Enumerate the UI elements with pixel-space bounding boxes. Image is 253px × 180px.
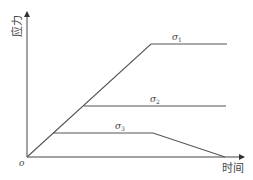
origin-label: o [19,158,25,168]
x-axis-label: 时间 [222,162,244,175]
label-sigma-1: σ 1 [172,32,182,43]
curve-sigma-1 [27,44,227,157]
y-axis-label: 应力 [10,15,24,37]
svg-text:1: 1 [178,36,182,43]
svg-text:3: 3 [121,125,125,132]
label-sigma-2: σ 2 [150,94,160,105]
label-sigma-3: σ 3 [115,121,125,132]
curve-sigma-3 [53,133,225,157]
stress-time-diagram: 应力 时间 o σ 1 σ 2 σ 3 [0,0,253,180]
svg-text:2: 2 [156,98,160,105]
